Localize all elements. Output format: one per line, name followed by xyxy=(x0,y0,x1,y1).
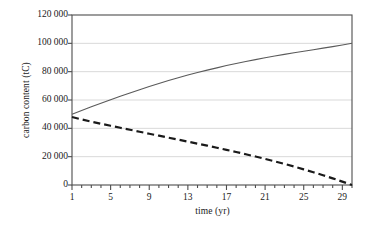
plot-area xyxy=(0,0,371,227)
chart-figure: carbon content (tC) time (yr) 020 00040 … xyxy=(0,0,371,227)
data-series-line-0 xyxy=(72,43,352,114)
data-series-line-1 xyxy=(72,117,352,185)
